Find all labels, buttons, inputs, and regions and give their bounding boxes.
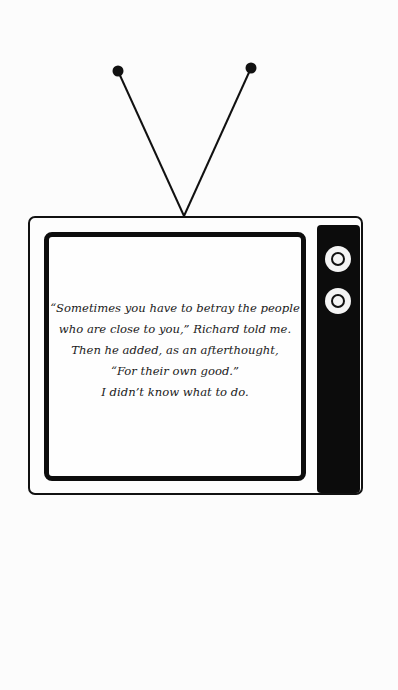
tv-control-panel	[317, 225, 360, 493]
antenna-right-rod	[184, 68, 251, 216]
knob-icon	[325, 288, 351, 314]
quote-line: Then he added, as an afterthought,	[50, 340, 300, 361]
antenna-left-rod	[118, 71, 184, 216]
quote-line: “For their own good.”	[50, 361, 300, 382]
antenna	[0, 0, 398, 230]
quote-line: who are close to you,” Richard told me.	[50, 319, 300, 340]
quote-text: “Sometimes you have to betray the people…	[50, 298, 300, 403]
antenna-left-tip-icon	[113, 66, 124, 77]
antenna-right-tip-icon	[246, 63, 257, 74]
tv-screen: “Sometimes you have to betray the people…	[44, 232, 306, 481]
quote-line: I didn’t know what to do.	[50, 382, 300, 403]
quote-line: “Sometimes you have to betray the people	[50, 298, 300, 319]
knob-icon	[325, 246, 351, 272]
